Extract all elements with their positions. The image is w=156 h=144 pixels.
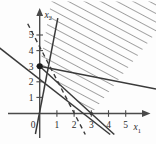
y-tick-label-3: 3 <box>29 62 34 72</box>
origin-label: 0 <box>31 120 36 130</box>
corner-vertex-marker <box>90 112 93 115</box>
x-tick-label-2: 2 <box>72 120 77 130</box>
y-tick-label-4: 4 <box>29 46 34 56</box>
y-axis-label-sub: 2 <box>49 14 52 21</box>
x-tick-label-3: 3 <box>89 120 94 130</box>
plot-svg: 0 1 2 3 4 5 1 2 3 4 5 x2 x1 <box>0 0 156 144</box>
figure-container: 0 1 2 3 4 5 1 2 3 4 5 x2 x1 <box>0 0 156 144</box>
y-tick-label-2: 2 <box>29 77 34 87</box>
y-tick-label-5: 5 <box>29 30 34 40</box>
optimal-vertex-marker <box>37 63 43 69</box>
x-tick-label-4: 4 <box>106 120 111 130</box>
x-axis-arrow <box>142 110 151 117</box>
y-axis-arrow <box>36 8 43 16</box>
x-axis-label-sub: 1 <box>138 127 141 134</box>
x-tick-label-1: 1 <box>55 120 60 130</box>
y-tick-label-1: 1 <box>29 93 34 103</box>
x-axis-label: x1 <box>133 122 141 134</box>
x-tick-label-5: 5 <box>123 120 128 130</box>
